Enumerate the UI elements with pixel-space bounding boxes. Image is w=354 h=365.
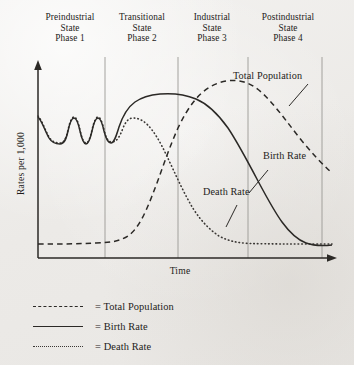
curve-total-population: [38, 80, 332, 244]
legend-row-birth-rate: = Birth Rate: [30, 316, 290, 336]
legend-swatch-dotted-line: [30, 340, 86, 352]
leader-line-birth-rate: [249, 170, 268, 193]
y-axis-title: Rates per 1,000: [15, 116, 26, 212]
legend-equals-birth-rate: =: [95, 321, 101, 332]
curve-birth-rate: [38, 94, 332, 246]
legend-equals-death-rate: =: [95, 341, 101, 352]
x-axis-title: Time: [150, 265, 210, 276]
demographic-transition-figure: Preindustrial State Phase 1 Transitional…: [0, 0, 354, 365]
legend-name-birth-rate: Birth Rate: [104, 321, 148, 332]
y-axis: [34, 60, 42, 258]
legend-swatch-dashed-line: [30, 300, 86, 312]
curve-tag-total-population: Total Population: [233, 70, 302, 81]
legend-label-birth-rate: = Birth Rate: [86, 321, 148, 332]
legend: = Total Population = Birth Rate = Death …: [30, 296, 290, 356]
plot-area: [0, 0, 354, 290]
curve-death-rate: [38, 116, 332, 244]
legend-label-death-rate: = Death Rate: [86, 341, 151, 352]
x-axis: [38, 254, 337, 262]
curve-tag-birth-rate: Birth Rate: [263, 150, 306, 161]
curve-tag-death-rate: Death Rate: [203, 186, 250, 197]
x-axis-arrowhead: [327, 254, 337, 262]
legend-name-death-rate: Death Rate: [104, 341, 151, 352]
leader-line-total-population: [289, 84, 308, 106]
leader-line-death-rate: [226, 205, 237, 227]
legend-label-total-population: = Total Population: [86, 301, 174, 312]
legend-row-total-population: = Total Population: [30, 296, 290, 316]
legend-name-total-population: Total Population: [103, 301, 173, 312]
y-axis-arrowhead: [34, 60, 42, 70]
legend-swatch-solid-line: [30, 320, 86, 332]
legend-row-death-rate: = Death Rate: [30, 336, 290, 356]
legend-equals-total-population: =: [95, 301, 101, 312]
